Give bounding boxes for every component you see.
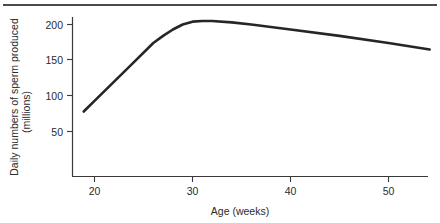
y-tick-label-200: 200 [45, 19, 63, 31]
y-tick-label-50: 50 [51, 126, 63, 138]
figure-container: 200 150 100 50 20 30 40 50 Age (weeks) D… [0, 0, 440, 223]
x-tick-label-40: 40 [285, 185, 297, 197]
y-axis-title-units: (millions) [20, 91, 32, 133]
x-axis-title: Age (weeks) [211, 205, 269, 217]
data-series-line [84, 21, 430, 112]
x-tick-label-50: 50 [383, 185, 395, 197]
x-tick-label-20: 20 [89, 185, 101, 197]
chart-svg: 200 150 100 50 20 30 40 50 Age (weeks) D… [0, 0, 440, 223]
y-tick-label-150: 150 [45, 54, 63, 66]
y-tick-label-100: 100 [45, 90, 63, 102]
y-axis-title: Daily numbers of sperm produced [8, 18, 20, 176]
x-tick-label-30: 30 [187, 185, 199, 197]
